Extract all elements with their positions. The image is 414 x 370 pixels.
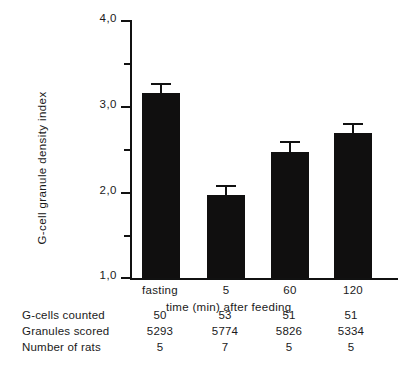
y-tick-3: 3,0 [121, 106, 130, 108]
cell-rats-120: 5 [323, 339, 379, 355]
error-bar-60min [289, 143, 291, 152]
cell-rats-60: 5 [261, 339, 317, 355]
table-row: G-cells counted 50 53 51 51 [22, 307, 402, 323]
error-bar-fasting [160, 85, 162, 93]
y-tick-3-5 [124, 63, 130, 65]
y-tick-label-1: 1,0 [100, 269, 118, 281]
cell-rats-5: 7 [197, 339, 253, 355]
figure-container: G-cell granule density index 4,0 3,0 2,0… [0, 0, 414, 370]
error-cap-fasting [151, 83, 171, 85]
bar-fasting [142, 93, 180, 278]
bar-120min [334, 133, 372, 278]
y-tick-2-5 [124, 149, 130, 151]
y-tick-label-2: 2,0 [100, 184, 118, 196]
error-bar-5min [225, 187, 227, 195]
y-axis-title: G-cell granule density index [36, 53, 48, 283]
table-row: Granules scored 5293 5774 5826 5334 [22, 323, 402, 339]
data-table: G-cells counted 50 53 51 51 Granules sco… [22, 307, 402, 355]
y-tick-1-5 [124, 235, 130, 237]
row-label-granules-scored: Granules scored [22, 323, 109, 339]
error-cap-5min [216, 185, 236, 187]
x-axis-line [130, 278, 398, 280]
cell-rats-fasting: 5 [132, 339, 188, 355]
y-tick-1: 1,0 [121, 277, 130, 279]
x-label-60: 60 [259, 284, 321, 296]
y-tick-4: 4,0 [121, 20, 130, 22]
cell-g-cells-fasting: 50 [132, 307, 188, 323]
cell-g-cells-60: 51 [261, 307, 317, 323]
cell-granules-120: 5334 [323, 323, 379, 339]
cell-granules-5: 5774 [197, 323, 253, 339]
error-cap-120min [343, 123, 363, 125]
y-tick-2: 2,0 [121, 192, 130, 194]
plot-area: 4,0 3,0 2,0 1,0 fasting 5 60 120 tim [130, 20, 398, 278]
cell-granules-fasting: 5293 [132, 323, 188, 339]
cell-g-cells-5: 53 [197, 307, 253, 323]
cell-granules-60: 5826 [261, 323, 317, 339]
x-label-fasting: fasting [129, 284, 191, 296]
y-axis-line [130, 20, 132, 279]
y-tick-label-4: 4,0 [100, 12, 118, 24]
x-label-5: 5 [195, 284, 257, 296]
x-label-120: 120 [322, 284, 384, 296]
cell-g-cells-120: 51 [323, 307, 379, 323]
bar-60min [271, 152, 309, 278]
error-cap-60min [280, 141, 300, 143]
error-bar-120min [352, 125, 354, 133]
y-tick-label-3: 3,0 [100, 98, 118, 110]
table-row: Number of rats 5 7 5 5 [22, 339, 402, 355]
row-label-number-of-rats: Number of rats [22, 339, 101, 355]
bar-5min [207, 195, 245, 278]
row-label-g-cells-counted: G-cells counted [22, 307, 105, 323]
